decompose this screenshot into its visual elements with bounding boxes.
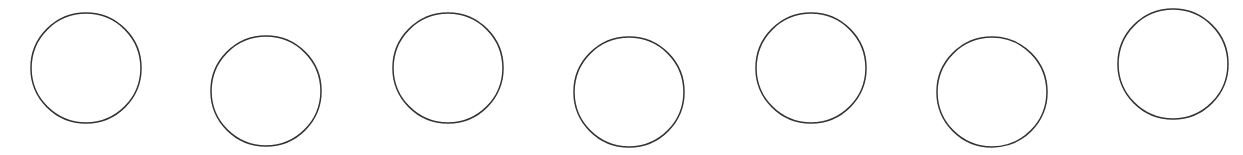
circles-diagram — [0, 0, 1243, 155]
circle-7 — [1118, 9, 1228, 119]
circle-group — [31, 9, 1228, 147]
circle-2 — [211, 36, 321, 146]
circle-6 — [937, 37, 1047, 147]
circle-5 — [756, 13, 866, 123]
diagram-canvas — [0, 0, 1243, 155]
circle-1 — [31, 13, 141, 123]
circle-4 — [574, 37, 684, 147]
circle-3 — [393, 13, 503, 123]
